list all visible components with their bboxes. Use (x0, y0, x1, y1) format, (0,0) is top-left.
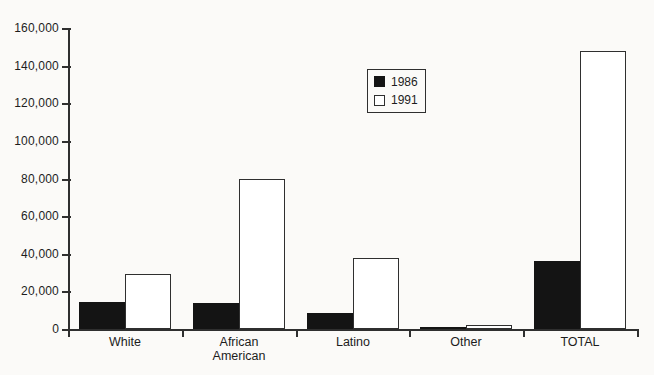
bar-1986-african-american (193, 303, 239, 329)
legend-swatch-1986-filled-square-icon (374, 76, 385, 87)
x-axis-tick (68, 329, 70, 337)
y-axis-tick-label: 80,000 (0, 172, 59, 186)
y-axis-tick (62, 254, 71, 256)
y-axis-tick-label: 60,000 (0, 209, 59, 223)
category-label-latino: Latino (313, 336, 393, 350)
y-axis-tick-label: 120,000 (0, 96, 59, 110)
x-axis-tick (182, 329, 184, 337)
y-axis-tick (62, 103, 71, 105)
y-axis-tick (62, 291, 71, 293)
legend-item-1986: 1986 (374, 75, 425, 89)
y-axis-tick (62, 66, 71, 68)
x-axis-line (68, 329, 639, 331)
chart-legend: 1986 1991 (367, 69, 426, 113)
x-axis-tick (409, 329, 411, 337)
bar-1991-other (466, 325, 512, 329)
y-axis-tick-label: 100,000 (0, 134, 59, 148)
legend-item-1991: 1991 (374, 93, 425, 107)
legend-label-1991: 1991 (391, 93, 418, 107)
bar-1986-latino (307, 313, 353, 329)
bar-1991-latino (353, 258, 399, 330)
y-axis-tick-label: 0 (0, 322, 59, 336)
x-axis-tick (523, 329, 525, 337)
y-axis-tick (62, 179, 71, 181)
scanned-bar-chart-figure: 1986 1991 020,00040,00060,00080,000100,0… (0, 0, 654, 375)
y-axis-tick-label: 160,000 (0, 21, 59, 35)
y-axis-tick (62, 216, 71, 218)
bar-1991-total (580, 51, 626, 329)
bar-chart: 1986 1991 020,00040,00060,00080,000100,0… (0, 0, 654, 375)
y-axis-tick (62, 329, 71, 331)
category-label-african-american: African American (199, 336, 279, 363)
category-label-total: TOTAL (540, 336, 620, 350)
bar-1986-white (79, 302, 125, 329)
y-axis-tick-label: 40,000 (0, 247, 59, 261)
legend-label-1986: 1986 (391, 75, 418, 89)
y-axis-tick-label: 140,000 (0, 59, 59, 73)
bar-1991-african-american (239, 179, 285, 330)
x-axis-tick (637, 329, 639, 337)
category-label-other: Other (426, 336, 506, 350)
y-axis-tick (62, 28, 71, 30)
legend-swatch-1991-open-square-icon (374, 95, 385, 106)
x-axis-tick (296, 329, 298, 337)
bar-1986-total (534, 261, 580, 329)
y-axis-tick (62, 141, 71, 143)
y-axis-tick-label: 20,000 (0, 284, 59, 298)
category-label-white: White (85, 336, 165, 350)
bar-1986-other (420, 327, 466, 329)
bar-1991-white (125, 274, 171, 330)
